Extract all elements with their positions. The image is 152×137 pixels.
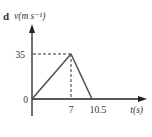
x-tick-7: 7 — [69, 105, 74, 115]
velocity-time-graph: d v(m s⁻¹) 35 0 7 10.5 t(s) — [0, 0, 152, 137]
y-axis-arrow-icon — [29, 24, 35, 33]
x-axis-arrow-icon — [138, 96, 147, 102]
y-tick-35: 35 — [16, 50, 26, 60]
y-axis-label: v(m s⁻¹) — [14, 11, 45, 22]
x-tick-10-5: 10.5 — [90, 105, 107, 115]
velocity-line — [32, 54, 92, 99]
origin-label: 0 — [23, 95, 28, 105]
panel-label: d — [3, 10, 9, 22]
x-axis-label: t(s) — [130, 105, 143, 116]
